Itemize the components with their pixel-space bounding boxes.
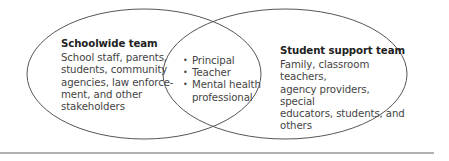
student-support-team-title: Student support team [280, 45, 405, 57]
student-support-team-description: Family, classroom teachers, agency provi… [280, 59, 405, 132]
intersection-label: Principal Teacher Mental health professi… [183, 55, 263, 104]
schoolwide-team-title: Schoolwide team [61, 38, 181, 50]
schoolwide-team-label: Schoolwide team School staff, parents, s… [61, 38, 181, 113]
schoolwide-team-description: School staff, parents, students, communi… [61, 52, 181, 113]
intersection-item-principal: Principal [183, 55, 263, 67]
student-support-team-label: Student support team Family, classroom t… [280, 45, 405, 132]
intersection-item-teacher: Teacher [183, 67, 263, 79]
intersection-item-mental-health: Mental health professional [183, 79, 263, 103]
intersection-list: Principal Teacher Mental health professi… [183, 55, 263, 104]
